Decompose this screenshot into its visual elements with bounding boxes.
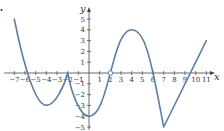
x-tick-label: −7 (9, 76, 19, 84)
y-tick-label: 3 (81, 37, 85, 45)
x-tick-label: 1 (97, 76, 101, 84)
y-tick-label: −1 (75, 80, 85, 88)
x-tick-label: 7 (161, 76, 165, 84)
corner-mark (1, 9, 3, 11)
x-tick-label: 10 (191, 76, 200, 84)
point-markers (108, 71, 113, 76)
x-tick-label: 5 (140, 76, 144, 84)
y-tick-label: 5 (81, 16, 85, 24)
y-tick-label: −5 (75, 124, 85, 131)
x-tick-label: 4 (129, 76, 134, 84)
y-tick-label: 4 (81, 26, 86, 34)
x-tick-label: 8 (172, 76, 176, 84)
y-tick-label: 1 (81, 59, 85, 67)
open-circle-marker (108, 71, 113, 76)
x-tick-label: −5 (30, 76, 40, 84)
axes (4, 7, 215, 130)
x-axis-title: x (214, 71, 220, 82)
x-tick-label: 11 (202, 76, 211, 84)
y-axis-arrow-icon (87, 7, 91, 12)
y-tick-label: −2 (75, 91, 85, 99)
y-axis-title: y (79, 3, 86, 14)
x-tick-label: −3 (52, 76, 62, 84)
function-graph: −7−6−5−4−3−2−11234567891011 −5−4−3−2−112… (0, 0, 224, 130)
x-tick-label: −4 (41, 76, 52, 84)
x-tick-label: 3 (119, 76, 123, 84)
y-tick-label: 2 (81, 48, 85, 56)
